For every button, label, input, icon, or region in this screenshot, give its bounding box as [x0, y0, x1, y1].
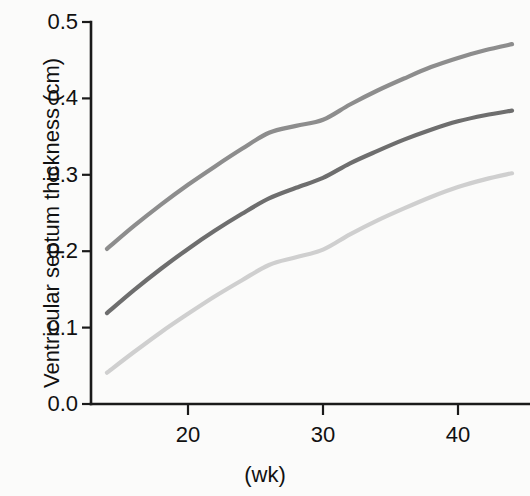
chart-curve-middle-reference-curve — [107, 111, 512, 313]
y-axis-title: Ventricular septum thickness (cm) — [39, 23, 65, 423]
chart-curve-lower-reference-curve — [107, 173, 512, 372]
x-axis-tick-label: 30 — [311, 424, 335, 446]
x-axis-tick-label: 20 — [176, 424, 200, 446]
x-axis-title: (wk) — [0, 462, 530, 488]
chart-axes — [91, 22, 529, 404]
x-axis-ticks — [188, 404, 458, 415]
chart-figure: 0.00.10.20.30.40.5 203040 Ventricular se… — [0, 0, 530, 496]
y-axis-ticks — [82, 22, 91, 404]
chart-curve-upper-reference-curve — [107, 44, 512, 249]
chart-curves — [107, 44, 512, 373]
x-axis-tick-label: 40 — [446, 424, 470, 446]
